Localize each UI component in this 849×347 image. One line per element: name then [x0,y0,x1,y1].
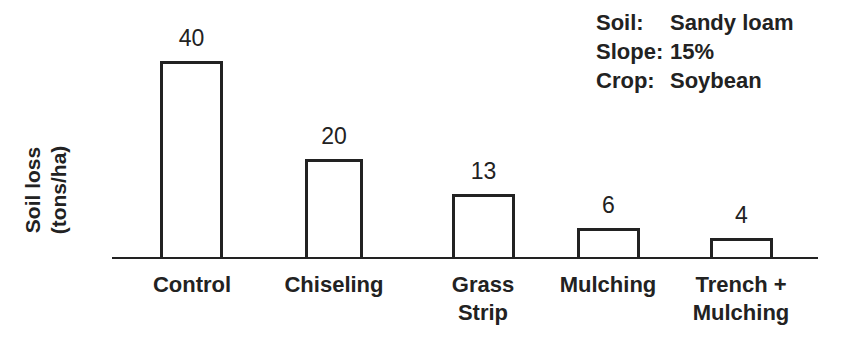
bar-control [160,61,223,258]
y-axis-label-line-1: Soil loss [20,110,46,270]
x-tick-label: Trench +Mulching [671,271,811,327]
bar-value-label: 6 [569,192,649,219]
x-tick-label: Control [122,271,262,299]
bar-value-label: 40 [152,25,232,52]
bar-mulching [577,228,640,258]
bar-value-label: 4 [702,202,782,229]
bar-chart: Soil loss (tons/ha) Soil: Sandy loam Slo… [0,0,849,347]
y-axis-label-line-2: (tons/ha) [46,110,72,270]
x-tick-label: GrassStrip [413,271,553,327]
annotation-crop: Crop: Soybean [596,66,793,95]
bar-grass-strip [452,194,515,258]
conditions-annotation: Soil: Sandy loam Slope: 15% Crop: Soybea… [596,8,793,95]
x-axis-line [112,257,818,259]
x-tick-label: Chiseling [264,271,404,299]
annotation-slope: Slope: 15% [596,37,793,66]
bar-value-label: 13 [444,158,524,185]
bar-chiseling [305,159,363,258]
annotation-soil: Soil: Sandy loam [596,8,793,37]
bar-trench-mulching [710,238,773,258]
bar-value-label: 20 [294,123,374,150]
x-tick-label: Mulching [538,271,678,299]
y-axis-label: Soil loss (tons/ha) [20,110,72,270]
